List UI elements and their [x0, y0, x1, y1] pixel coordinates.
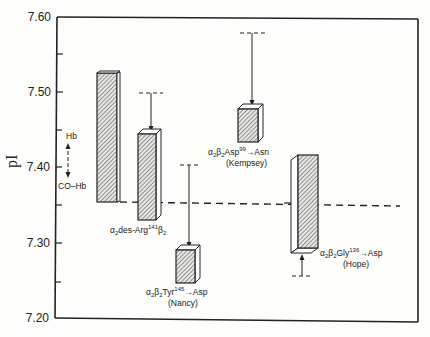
label-hope: α2β2Gly136→Asp [320, 247, 383, 259]
label-kempsey-name: (Kempsey) [226, 158, 267, 168]
label-nancy: α2β2Tyr145→Asp [146, 286, 208, 298]
tick-7.30: 7.30 [27, 236, 51, 250]
hb-label: Hb [66, 131, 77, 141]
arrow-up-icon [300, 254, 305, 260]
bar-nancy [176, 165, 200, 283]
label-hope-name: (Hope) [343, 259, 369, 269]
bar-hb [97, 71, 120, 202]
pi-chart: 7.60 7.50 7.40 7.30 7.20 pI Hb CO–Hb α2d… [0, 0, 430, 337]
tick-7.40: 7.40 [27, 160, 51, 174]
label-des-arg: α2des-Arg141β2 [110, 224, 167, 236]
tick-7.20: 7.20 [26, 311, 50, 325]
cohb-label: CO–Hb [58, 181, 87, 191]
label-nancy-name: (Nancy) [168, 298, 198, 308]
hb-cohb-annotation: Hb CO–Hb [58, 131, 87, 191]
bar-hope [284, 155, 318, 276]
reference-line [120, 202, 400, 206]
arrow-up-icon [66, 143, 71, 149]
tick-7.60: 7.60 [28, 10, 52, 24]
y-axis-title: pI [3, 155, 21, 168]
tick-7.50: 7.50 [28, 85, 52, 99]
bar-des-arg [138, 93, 163, 220]
bar-kempsey [238, 33, 266, 142]
label-kempsey: α2β2Asp99→Asn [208, 146, 269, 158]
arrow-down-icon [66, 172, 71, 178]
y-axis-labels: 7.60 7.50 7.40 7.30 7.20 [26, 10, 52, 325]
